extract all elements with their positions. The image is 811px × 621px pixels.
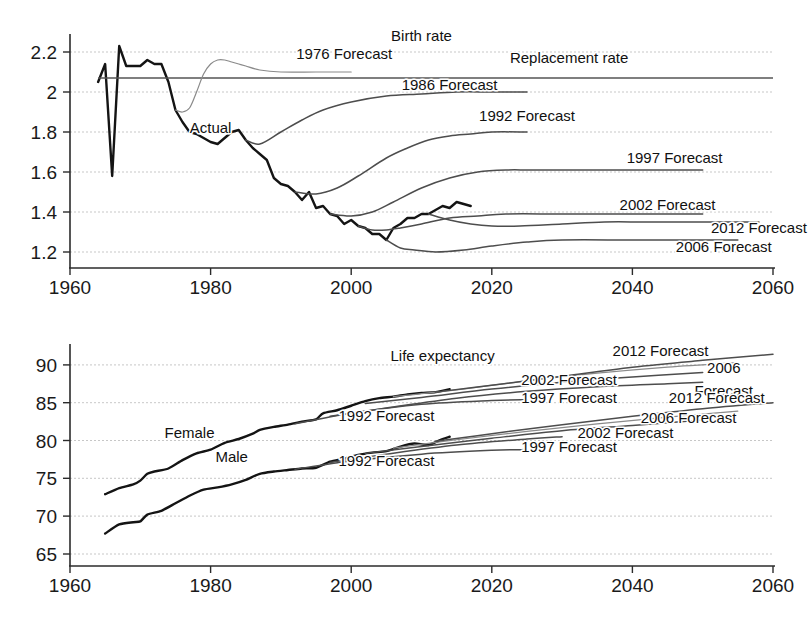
annotation-birth-rate-0: Birth rate [391, 27, 452, 44]
y-tick-label-2: 75 [36, 468, 57, 489]
x-tick-label-3: 2020 [471, 277, 513, 298]
birth-rate-annotations: Birth rateReplacement rateActual1976 For… [190, 27, 808, 255]
annotation-1997-forecast-6: 1997 Forecast [627, 149, 724, 166]
annotation-2002-forecast-8: 2002 Forecast [521, 371, 618, 388]
annotation-female-1: Female [164, 424, 214, 441]
x-tick-label-1: 1980 [189, 277, 231, 298]
x-tick-label-3: 2020 [471, 575, 513, 596]
series-1976-forecast [175, 60, 351, 112]
life-expectancy-chart: 657075808590196019802000202020402060 Lif… [0, 310, 811, 621]
life-expectancy-series [105, 354, 773, 533]
x-tick-label-5: 2060 [752, 575, 794, 596]
annotation-2006-forecast-9: 2006 Forecast [676, 238, 773, 255]
annotation-2012-forecast-8: 2012 Forecast [711, 219, 808, 236]
x-tick-label-2: 2000 [330, 575, 372, 596]
y-tick-label-1: 1.4 [31, 202, 58, 223]
annotation-1992-forecast-3: 1992 Forecast [338, 407, 435, 424]
y-tick-label-2: 1.6 [31, 162, 57, 183]
y-tick-label-5: 90 [36, 355, 57, 376]
x-tick-label-0: 1960 [49, 575, 91, 596]
life-expectancy-annotations: Life expectancyFemaleMale1992 Forecast19… [164, 342, 765, 469]
x-tick-label-5: 2060 [752, 277, 794, 298]
annotation-1976-forecast-3: 1976 Forecast [296, 45, 393, 62]
x-tick-label-4: 2040 [611, 277, 653, 298]
x-tick-label-4: 2040 [611, 575, 653, 596]
birth-rate-chart: 1.21.41.61.822.2196019802000202020402060… [0, 0, 811, 310]
y-tick-label-0: 1.2 [31, 242, 57, 263]
annotation-life-expectancy-0: Life expectancy [390, 347, 495, 364]
y-tick-label-4: 2 [46, 82, 57, 103]
annotation-2012-forecast-5: 2012 Forecast [613, 342, 710, 359]
series-1992-forecast [295, 132, 527, 194]
y-tick-label-0: 65 [36, 544, 57, 565]
y-tick-label-4: 85 [36, 393, 57, 414]
x-tick-label-0: 1960 [49, 277, 91, 298]
annotation-2006-6: 2006 [707, 359, 740, 376]
annotation-2012-forecast-10: 2012 Forecast [669, 389, 766, 406]
y-tick-label-1: 70 [36, 506, 57, 527]
annotation-male-2: Male [215, 448, 248, 465]
y-tick-label-3: 1.8 [31, 122, 57, 143]
annotation-1992-forecast-5: 1992 Forecast [479, 107, 576, 124]
annotation-1992-forecast-4: 1992 Forecast [338, 452, 435, 469]
annotation-actual-2: Actual [190, 119, 232, 136]
y-tick-label-3: 80 [36, 431, 57, 452]
annotation-1997-forecast-9: 1997 Forecast [521, 389, 618, 406]
x-tick-label-2: 2000 [330, 277, 372, 298]
x-tick-label-1: 1980 [189, 575, 231, 596]
annotation-2002-forecast-7: 2002 Forecast [620, 196, 717, 213]
annotation-1997-forecast-13: 1997 Forecast [521, 438, 618, 455]
annotation-1986-forecast-4: 1986 Forecast [402, 76, 499, 93]
y-tick-label-5: 2.2 [31, 42, 57, 63]
annotation-replacement-rate-1: Replacement rate [510, 49, 628, 66]
figure-root: 1.21.41.61.822.2196019802000202020402060… [0, 0, 811, 621]
series-female-actual [105, 389, 449, 494]
